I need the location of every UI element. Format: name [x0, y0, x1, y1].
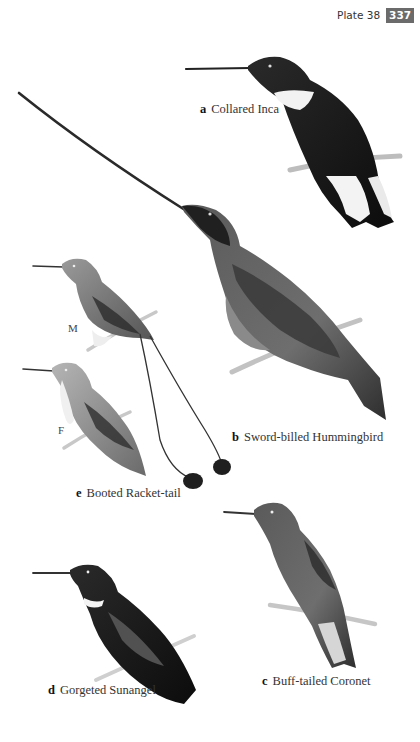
caption-name: Collared Inca	[211, 102, 279, 116]
sex-label-female: F	[58, 424, 64, 436]
caption-name: Buff-tailed Coronet	[273, 674, 371, 688]
sex-label-male: M	[68, 322, 78, 334]
caption-name: Booted Racket-tail	[87, 486, 181, 500]
bird-buff-tailed-coronet	[224, 503, 375, 668]
caption-sword-billed-hummingbird: bSword-billed Hummingbird	[232, 430, 383, 445]
caption-letter: b	[232, 430, 239, 444]
caption-collared-inca: aCollared Inca	[200, 102, 279, 117]
bird-booted-racket-tail-female	[23, 363, 146, 476]
caption-letter: e	[76, 486, 82, 500]
caption-letter: d	[48, 683, 55, 697]
caption-gorgeted-sunangel: dGorgeted Sunangel	[48, 683, 156, 698]
caption-buff-tailed-coronet: cBuff-tailed Coronet	[262, 674, 371, 689]
caption-booted-racket-tail: eBooted Racket-tail	[76, 486, 181, 501]
bird-collared-inca	[186, 57, 400, 228]
caption-letter: c	[262, 674, 268, 688]
caption-name: Sword-billed Hummingbird	[244, 430, 383, 444]
caption-letter: a	[200, 102, 206, 116]
caption-name: Gorgeted Sunangel	[60, 683, 156, 697]
